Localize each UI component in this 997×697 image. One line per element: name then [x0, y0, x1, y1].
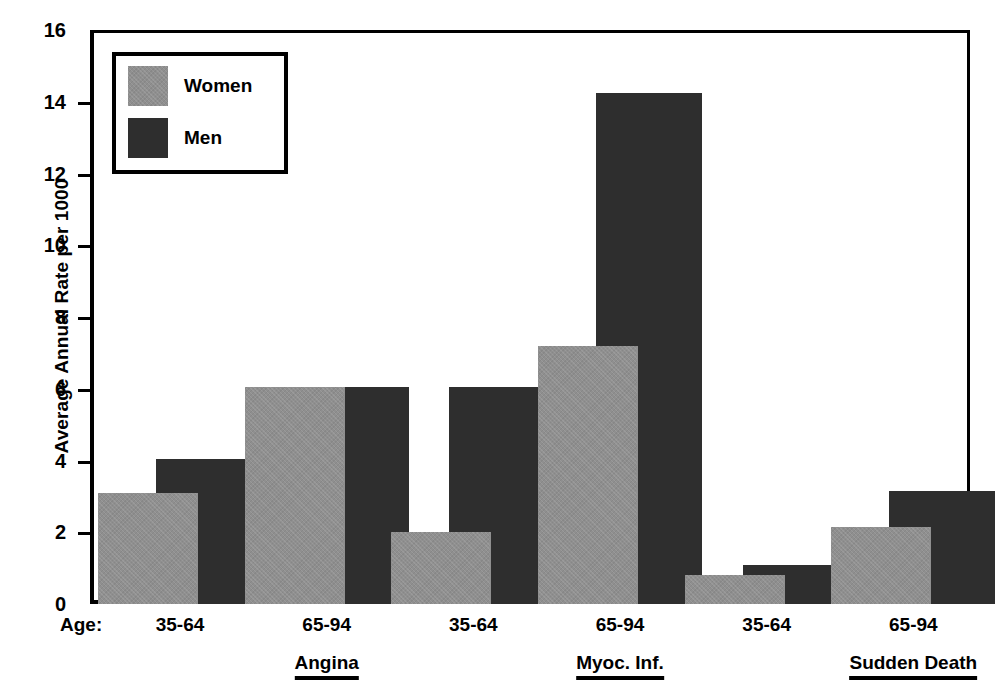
legend-entry-men: Men — [128, 118, 222, 158]
legend-swatch-women-icon — [128, 66, 168, 106]
x-group-label: Angina — [294, 652, 358, 680]
y-tick-label: 16 — [0, 19, 66, 42]
y-tick-label: 0 — [0, 593, 66, 616]
bar-women — [538, 346, 638, 604]
x-tick-label: 35-64 — [156, 614, 205, 636]
legend: Women Men — [112, 52, 288, 174]
x-tick-label: 35-64 — [742, 614, 791, 636]
bar-women — [685, 575, 785, 604]
y-tick-label: 12 — [0, 162, 66, 185]
legend-swatch-men-icon — [128, 118, 168, 158]
bar-women — [831, 527, 931, 604]
y-tick-label: 8 — [0, 306, 66, 329]
y-tick-label: 4 — [0, 449, 66, 472]
x-axis-age-prefix: Age: — [60, 614, 102, 636]
legend-label-women: Women — [184, 75, 252, 97]
x-tick-label: 65-94 — [302, 614, 351, 636]
bar-women — [98, 493, 198, 604]
y-tick-label: 14 — [0, 90, 66, 113]
legend-label-men: Men — [184, 127, 222, 149]
x-tick-label: 65-94 — [889, 614, 938, 636]
bar-women — [245, 387, 345, 604]
legend-entry-women: Women — [128, 66, 252, 106]
x-tick-label: 65-94 — [596, 614, 645, 636]
y-tick-label: 2 — [0, 521, 66, 544]
bar-chart: Average Annual Rate per 1000 02468101214… — [0, 0, 997, 697]
x-tick-label: 35-64 — [449, 614, 498, 636]
x-group-label: Myoc. Inf. — [576, 652, 664, 680]
x-group-label: Sudden Death — [849, 652, 977, 680]
bar-women — [391, 532, 491, 604]
y-tick-label: 10 — [0, 234, 66, 257]
y-tick-label: 6 — [0, 377, 66, 400]
